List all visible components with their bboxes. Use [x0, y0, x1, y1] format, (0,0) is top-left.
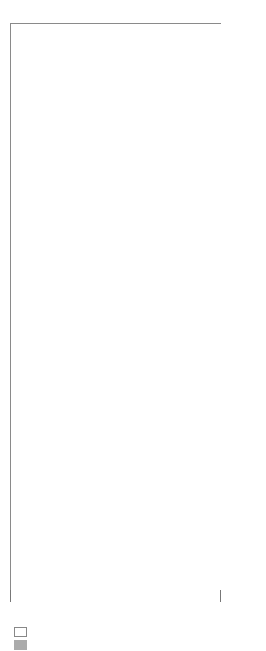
fern-swatch-icon	[14, 640, 27, 650]
legend-white	[14, 627, 28, 637]
knitting-chart-grid	[10, 23, 221, 590]
legend-fern	[14, 640, 28, 650]
white-swatch-icon	[14, 627, 27, 637]
repeat-bracket	[10, 590, 221, 602]
